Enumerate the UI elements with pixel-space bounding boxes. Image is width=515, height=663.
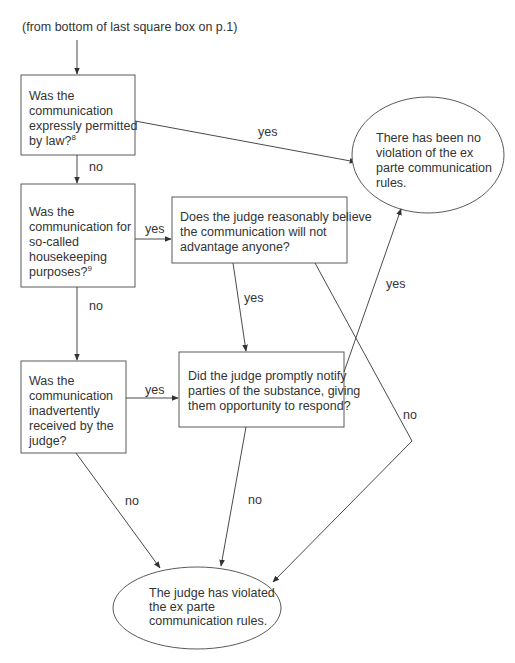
node-permitted-by-law: Was the communication expressly permitte… xyxy=(21,75,141,155)
node-line: parte communication xyxy=(376,161,492,175)
node-inadvertently-received: Was the communication inadvertently rece… xyxy=(21,361,126,453)
edge-label-yes: yes xyxy=(386,277,405,291)
node-line: judge? xyxy=(28,434,67,448)
edge-label-no: no xyxy=(89,299,103,313)
node-line: communication for xyxy=(29,220,131,234)
footnote-marker: 8 xyxy=(71,133,76,142)
node-line: the communication will not xyxy=(180,225,327,239)
node-line: advantage anyone? xyxy=(180,240,290,254)
node-text: Did the judge promptly notify parties of… xyxy=(188,369,364,413)
edge-label-yes: yes xyxy=(244,291,263,305)
node-line: expressly permitted xyxy=(29,119,137,133)
edge-label-no: no xyxy=(89,160,103,174)
node-line: The judge has violated xyxy=(149,586,275,600)
node-line: so-called xyxy=(29,235,79,249)
node-line: There has been no xyxy=(376,131,481,145)
flowchart: (from bottom of last square box on p.1) … xyxy=(0,0,515,663)
edge-permitted-yes xyxy=(135,121,356,162)
node-line: Does the judge reasonably believe xyxy=(180,210,372,224)
edge-label-no: no xyxy=(403,408,417,422)
node-promptly-notify: Did the judge promptly notify parties of… xyxy=(179,352,364,427)
node-line: received by the xyxy=(29,419,114,433)
node-line: them opportunity to respond? xyxy=(188,399,351,413)
node-advantage-anyone: Does the judge reasonably believe the co… xyxy=(172,197,375,263)
node-violated: The judge has violated the ex parte comm… xyxy=(113,567,281,649)
node-line: violation of the ex xyxy=(376,146,474,160)
node-line: inadvertently xyxy=(29,404,101,418)
edge-inadvertent-no xyxy=(76,453,160,568)
node-line: Was the xyxy=(29,374,74,388)
node-no-violation: There has been no violation of the ex pa… xyxy=(352,97,504,213)
node-line: Did the judge promptly notify xyxy=(188,369,347,383)
node-line: by law? xyxy=(29,134,71,148)
edge-label-no: no xyxy=(248,493,262,507)
node-line: Was the xyxy=(29,205,74,219)
node-line: purposes? xyxy=(29,265,87,279)
edge-advantage-yes xyxy=(233,263,246,351)
node-line: communication rules. xyxy=(149,614,267,628)
node-line: communication xyxy=(29,389,113,403)
entry-note: (from bottom of last square box on p.1) xyxy=(22,20,237,34)
node-line: housekeeping xyxy=(29,250,107,264)
edge-label-yes: yes xyxy=(145,222,164,236)
edge-label-yes: yes xyxy=(258,125,277,139)
node-housekeeping: Was the communication for so-called hous… xyxy=(21,184,135,287)
node-line: communication xyxy=(29,104,113,118)
footnote-marker: 9 xyxy=(87,264,92,273)
node-line: Was the xyxy=(29,89,74,103)
edge-label-no: no xyxy=(125,494,139,508)
edge-label-yes: yes xyxy=(145,383,164,397)
node-line: the ex parte xyxy=(149,600,215,614)
node-line: parties of the substance, giving xyxy=(188,384,360,398)
edge-notify-no xyxy=(221,427,246,566)
node-line: rules. xyxy=(376,176,407,190)
